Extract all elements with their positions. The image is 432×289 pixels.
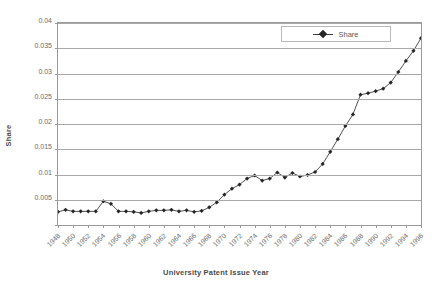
x-tick-mark: [330, 225, 331, 228]
gridline: [58, 74, 421, 75]
x-tick-mark: [255, 225, 256, 228]
x-tick-mark: [224, 225, 225, 228]
x-tick-mark: [345, 225, 346, 228]
gridline: [58, 23, 421, 24]
y-tick-mark: [55, 74, 58, 75]
gridline: [58, 175, 421, 176]
x-tick-mark: [119, 225, 120, 228]
y-tick-label: 0.01: [0, 169, 52, 176]
gridline: [58, 200, 421, 201]
y-tick-mark: [55, 48, 58, 49]
y-tick-label: 0.015: [0, 143, 52, 150]
y-tick-mark: [55, 124, 58, 125]
legend: Share: [281, 26, 391, 42]
x-tick-mark: [179, 225, 180, 228]
x-tick-mark: [134, 225, 135, 228]
chart-container: Share 0.0050.010.0150.020.0250.030.0350.…: [0, 0, 432, 289]
y-tick-label: 0.02: [0, 118, 52, 125]
x-tick-mark: [270, 225, 271, 228]
x-tick-mark: [391, 225, 392, 228]
gridline: [58, 149, 421, 150]
y-tick-mark: [55, 200, 58, 201]
x-tick-mark: [209, 225, 210, 228]
y-tick-label: 0.025: [0, 93, 52, 100]
gridline: [58, 48, 421, 49]
x-tick-mark: [376, 225, 377, 228]
y-tick-label: 0.035: [0, 42, 52, 49]
y-tick-label: 0.04: [0, 17, 52, 24]
x-tick-mark: [103, 225, 104, 228]
x-tick-mark: [164, 225, 165, 228]
x-axis-title: University Patent Issue Year: [0, 268, 432, 277]
legend-marker-icon: [313, 30, 333, 38]
x-tick-mark: [315, 225, 316, 228]
y-tick-label: 0.005: [0, 194, 52, 201]
y-tick-mark: [55, 23, 58, 24]
x-tick-mark: [88, 225, 89, 228]
plot-area: [57, 22, 422, 226]
y-tick-mark: [55, 149, 58, 150]
gridline: [58, 99, 421, 100]
x-tick-mark: [240, 225, 241, 228]
x-tick-mark: [421, 225, 422, 228]
x-tick-mark: [285, 225, 286, 228]
x-tick-mark: [406, 225, 407, 228]
x-tick-mark: [58, 225, 59, 228]
x-tick-mark: [194, 225, 195, 228]
x-tick-mark: [361, 225, 362, 228]
y-tick-mark: [55, 175, 58, 176]
y-tick-mark: [55, 99, 58, 100]
y-tick-label: 0.03: [0, 68, 52, 75]
x-tick-mark: [300, 225, 301, 228]
legend-label-share: Share: [338, 30, 358, 39]
gridline: [58, 124, 421, 125]
x-tick-mark: [73, 225, 74, 228]
x-tick-mark: [149, 225, 150, 228]
